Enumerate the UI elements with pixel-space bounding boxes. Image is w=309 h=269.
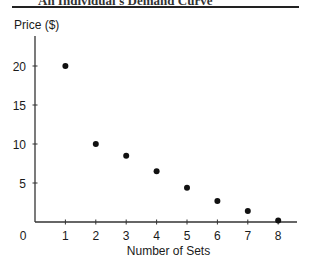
x-tick-label: 8 bbox=[275, 229, 282, 243]
x-tick-label: 6 bbox=[214, 229, 221, 243]
x-tick-label: 1 bbox=[62, 229, 69, 243]
x-tick-label: 4 bbox=[153, 229, 160, 243]
x-tick-label: 2 bbox=[92, 229, 99, 243]
x-tick-label: 5 bbox=[184, 229, 191, 243]
data-point bbox=[154, 168, 160, 174]
x-axis-label: Number of Sets bbox=[0, 244, 309, 258]
y-tick-label: 15 bbox=[13, 99, 27, 113]
data-point bbox=[275, 217, 281, 223]
y-tick-label: 5 bbox=[19, 177, 26, 191]
y-tick-label: 20 bbox=[13, 60, 27, 74]
data-point bbox=[123, 153, 129, 159]
data-point bbox=[93, 141, 99, 147]
x-tick-label: 7 bbox=[244, 229, 251, 243]
data-point bbox=[184, 185, 190, 191]
x-tick-label: 3 bbox=[123, 229, 130, 243]
data-point bbox=[214, 198, 220, 204]
scatter-chart: 1234567805101520 bbox=[0, 0, 309, 269]
origin-label: 0 bbox=[20, 229, 27, 243]
data-point bbox=[62, 63, 68, 69]
y-tick-label: 10 bbox=[13, 138, 27, 152]
data-point bbox=[245, 208, 251, 214]
